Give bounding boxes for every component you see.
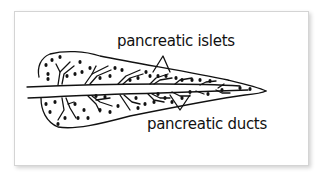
label-pancreatic-ducts: pancreatic ducts xyxy=(147,115,267,133)
main-duct-upper xyxy=(27,84,240,87)
diagram-canvas: pancreatic islets pancreatic ducts xyxy=(0,0,327,172)
label-pancreatic-islets: pancreatic islets xyxy=(117,32,235,50)
islets-leader xyxy=(153,56,170,72)
main-duct-lower xyxy=(28,90,248,98)
pancreas-diagram: pancreatic islets pancreatic ducts xyxy=(0,0,327,172)
